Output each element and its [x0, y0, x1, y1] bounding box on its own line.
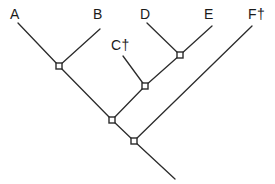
node-ab [56, 63, 62, 69]
node-de [177, 52, 183, 58]
branch-d [147, 23, 180, 55]
cladogram-canvas [0, 0, 275, 184]
branch-root [134, 141, 175, 179]
branch-group [18, 23, 252, 179]
taxon-label-f: F† [248, 7, 265, 21]
taxon-label-c: C† [111, 38, 130, 52]
branch-b [59, 29, 100, 66]
taxon-label-b: B [93, 7, 103, 21]
node-root [131, 138, 137, 144]
branch-a [18, 23, 59, 66]
node-group [56, 52, 183, 144]
branch-ab [59, 66, 112, 120]
branch-cde [112, 86, 145, 120]
taxon-label-e: E [204, 7, 214, 21]
cladogram-figure: ABC†DEF† [0, 0, 275, 184]
branch-de [145, 55, 180, 86]
node-abcde [109, 117, 115, 123]
taxon-label-a: A [10, 7, 20, 21]
taxon-label-d: D [140, 7, 151, 21]
branch-c [123, 56, 145, 86]
branch-e [180, 26, 212, 55]
node-cde [142, 83, 148, 89]
